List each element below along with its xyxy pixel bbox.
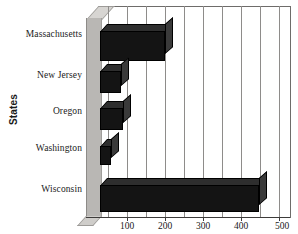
category-label-new-jersey: New Jersey xyxy=(37,70,82,80)
bar-oregon-front xyxy=(100,108,123,130)
plot-area: 100 200 300 400 500 xyxy=(86,6,292,228)
plot-top-edge xyxy=(100,6,290,7)
xtick-label-300: 300 xyxy=(196,221,210,231)
xtick-label-100: 100 xyxy=(120,221,134,231)
bar-new-jersey[interactable] xyxy=(100,64,121,86)
bar-wisconsin[interactable] xyxy=(100,178,259,205)
bar-chart: States Massachusetts New Jersey Oregon W… xyxy=(0,0,298,234)
category-label-group: Massachusetts New Jersey Oregon Washingt… xyxy=(0,0,86,234)
bar-washington-front xyxy=(100,146,111,165)
bar-massachusetts[interactable] xyxy=(100,24,165,54)
category-label-washington: Washington xyxy=(36,143,82,153)
category-label-oregon: Oregon xyxy=(53,106,82,116)
bar-new-jersey-front xyxy=(100,71,121,93)
xtick-label-400: 400 xyxy=(234,221,248,231)
xtick-label-200: 200 xyxy=(158,221,172,231)
bar-wisconsin-front xyxy=(100,185,259,212)
category-label-massachusetts: Massachusetts xyxy=(26,29,82,39)
category-label-wisconsin: Wisconsin xyxy=(41,184,82,194)
gridline-500 xyxy=(279,6,280,218)
bar-washington[interactable] xyxy=(100,139,111,158)
xtick-label-500: 500 xyxy=(275,221,289,231)
x-axis-line xyxy=(86,217,290,218)
bar-oregon[interactable] xyxy=(100,101,123,123)
bar-massachusetts-front xyxy=(100,31,165,61)
